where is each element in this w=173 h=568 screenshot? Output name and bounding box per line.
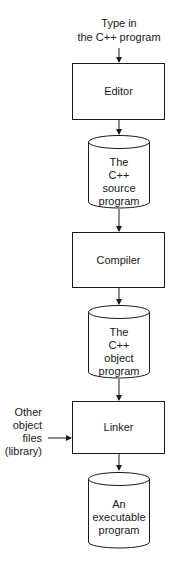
executable-label-1: An bbox=[112, 498, 125, 510]
source-label-2: C++ bbox=[109, 169, 130, 181]
object-label-3: object bbox=[104, 352, 133, 364]
object-label-2: C++ bbox=[109, 339, 130, 351]
editor-label: Editor bbox=[104, 85, 133, 97]
input-label-line-1: Type in bbox=[101, 17, 136, 29]
executable-label-2: executable bbox=[92, 511, 145, 523]
source-program-cylinder: The C++ source program bbox=[89, 136, 150, 208]
linker-label: Linker bbox=[104, 421, 134, 433]
library-label-4: (library) bbox=[5, 445, 42, 457]
flowchart: Type in the C++ program Editor The C++ s… bbox=[0, 0, 173, 568]
library-label-2: object bbox=[13, 419, 42, 431]
input-label-line-2: the C++ program bbox=[77, 31, 160, 43]
executable-program-cylinder: An executable program bbox=[89, 473, 150, 548]
compiler-box: Compiler bbox=[73, 233, 165, 288]
library-label-1: Other bbox=[14, 406, 42, 418]
compiler-label: Compiler bbox=[96, 254, 140, 266]
library-input-label: Other object files (library) bbox=[5, 406, 43, 457]
linker-box: Linker bbox=[73, 402, 165, 454]
source-label-4: program bbox=[99, 195, 140, 207]
source-label-1: The bbox=[110, 156, 129, 168]
input-label: Type in the C++ program bbox=[77, 17, 160, 43]
object-label-1: The bbox=[110, 326, 129, 338]
source-label-3: source bbox=[102, 182, 135, 194]
library-label-3: files bbox=[22, 432, 42, 444]
editor-box: Editor bbox=[73, 64, 165, 120]
executable-label-3: program bbox=[99, 524, 140, 536]
object-program-cylinder: The C++ object program bbox=[89, 306, 150, 378]
object-label-4: program bbox=[99, 365, 140, 377]
